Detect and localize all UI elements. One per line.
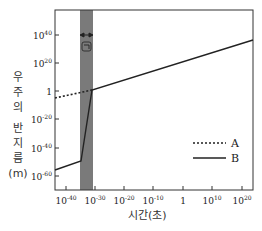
y-axis-ticks xyxy=(55,35,59,176)
svg-text:1020: 1020 xyxy=(33,57,52,69)
svg-text:1040: 1040 xyxy=(33,29,52,41)
ylabel-char: 의 xyxy=(6,100,30,115)
x-axis-tick-labels: 10-40 10-30 10-20 10-10 1 1010 1020 xyxy=(55,194,251,206)
ylabel-char: 름 xyxy=(6,151,30,166)
svg-text:1010: 1010 xyxy=(202,194,221,206)
svg-text:10-30: 10-30 xyxy=(84,194,105,206)
ylabel-char: 주 xyxy=(6,85,30,100)
svg-text:1020: 1020 xyxy=(232,194,251,206)
svg-text:10-20: 10-20 xyxy=(31,113,52,125)
svg-text:1: 1 xyxy=(46,87,52,97)
y-axis-label: 우 주 의 반 지 름 (m) xyxy=(6,70,30,181)
svg-text:10-20: 10-20 xyxy=(113,194,134,206)
svg-text:10-40: 10-40 xyxy=(31,142,52,154)
svg-text:10-40: 10-40 xyxy=(55,194,76,206)
legend xyxy=(193,143,226,158)
legend-b-label: B xyxy=(231,152,239,165)
svg-text:1: 1 xyxy=(180,196,186,206)
ylabel-char: 반 xyxy=(6,121,30,136)
chart-svg: 1040 1020 1 10-20 10-40 10-60 10-40 10-3… xyxy=(0,0,262,231)
x-axis-label: 시간(초) xyxy=(128,206,167,222)
ylabel-char: 우 xyxy=(6,70,30,85)
ylabel-char: 지 xyxy=(6,136,30,151)
y-axis-tick-labels: 1040 1020 1 10-20 10-40 10-60 xyxy=(31,29,52,182)
legend-a-label: A xyxy=(230,137,240,150)
ylabel-char: (m) xyxy=(6,166,30,181)
svg-text:10-60: 10-60 xyxy=(31,170,52,182)
svg-text:10-10: 10-10 xyxy=(142,194,163,206)
